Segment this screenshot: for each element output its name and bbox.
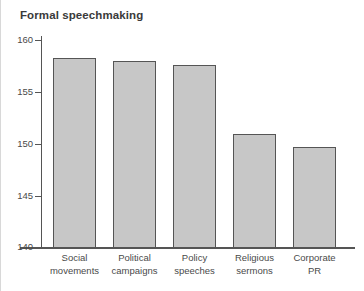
plot-area: 160 155 150 145 140 Social movements — [1, 0, 364, 291]
y-tick-label-155: 155 — [17, 86, 33, 97]
y-tick-label-160-wrap: 160 — [1, 34, 33, 46]
y-tick-140 — [35, 247, 41, 248]
y-tick-label-140: 140 — [17, 241, 33, 252]
y-tick-label-150-wrap: 150 — [1, 138, 33, 150]
y-tick-label-160: 160 — [17, 34, 33, 45]
bar-policy-speeches — [173, 65, 216, 248]
y-tick-label-145: 145 — [17, 190, 33, 201]
chart-figure: Formal speechmaking 160 155 150 145 140 — [0, 0, 364, 291]
x-label-line-1: Corporate — [279, 252, 350, 265]
x-label-line-2: PR — [279, 265, 350, 278]
y-axis-line — [41, 36, 42, 248]
y-tick-label-140-wrap: 140 — [1, 241, 33, 253]
y-tick-145 — [35, 196, 41, 197]
bar-corporate-pr — [293, 147, 336, 248]
bar-social-movements — [53, 58, 96, 248]
y-tick-label-155-wrap: 155 — [1, 86, 33, 98]
y-tick-150 — [35, 144, 41, 145]
x-tick-label-corporate-pr: Corporate PR — [279, 252, 350, 277]
bar-religious-sermons — [233, 134, 276, 248]
y-tick-label-150: 150 — [17, 138, 33, 149]
y-tick-160 — [35, 40, 41, 41]
bar-political-campaigns — [113, 61, 156, 248]
y-tick-155 — [35, 92, 41, 93]
y-tick-label-145-wrap: 145 — [1, 190, 33, 202]
